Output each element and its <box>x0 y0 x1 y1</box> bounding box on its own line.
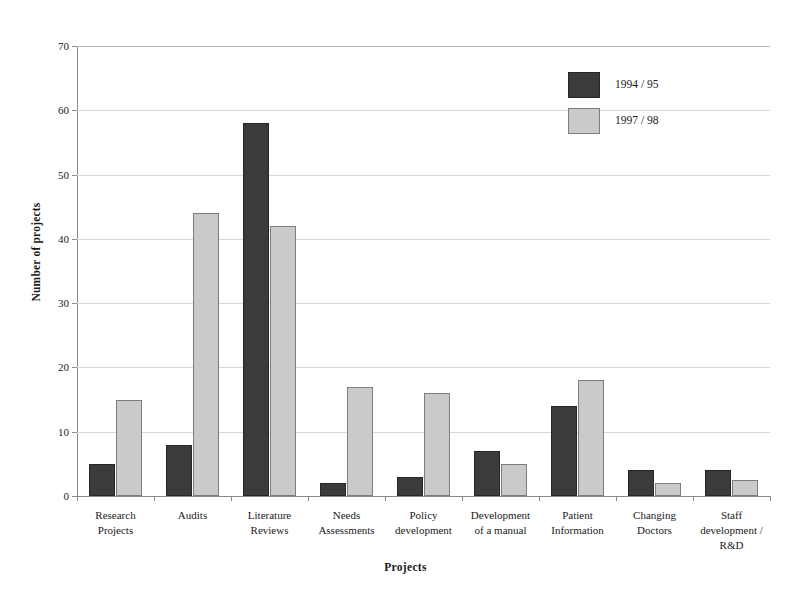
x-axis-category-label: Policydevelopment <box>385 508 462 538</box>
bar <box>655 483 681 496</box>
bar <box>116 400 142 496</box>
category-label-line: of a manual <box>462 523 539 538</box>
category-label-line: development <box>385 523 462 538</box>
x-axis-category-label: Developmentof a manual <box>462 508 539 538</box>
legend-swatch <box>568 108 600 134</box>
bar-group <box>705 46 758 496</box>
x-axis-category-label: LiteratureReviews <box>231 508 308 538</box>
bar-group <box>166 46 219 496</box>
y-tick-label: 0 <box>23 491 69 502</box>
x-axis-category-label: NeedsAssessments <box>308 508 385 538</box>
category-label-line: Projects <box>77 523 154 538</box>
y-tick-label: 40 <box>23 234 69 245</box>
bar <box>347 387 373 496</box>
bar <box>397 477 423 496</box>
bar <box>270 226 296 496</box>
category-label-line: development / <box>693 523 770 538</box>
y-tick-label: 60 <box>23 105 69 116</box>
category-label-line: Literature <box>231 508 308 523</box>
legend-label: 1997 / 98 <box>615 114 658 126</box>
category-label-line: Information <box>539 523 616 538</box>
bar <box>424 393 450 496</box>
category-label-line: Policy <box>385 508 462 523</box>
bar <box>243 123 269 496</box>
legend-label: 1994 / 95 <box>615 78 658 90</box>
category-label-line: Development <box>462 508 539 523</box>
bar <box>705 470 731 496</box>
x-tick-mark <box>770 496 771 501</box>
plot-area: 010203040506070 <box>77 46 770 497</box>
category-label-line: Needs <box>308 508 385 523</box>
bar-group <box>89 46 142 496</box>
y-tick-label: 20 <box>23 362 69 373</box>
legend-swatch <box>568 72 600 98</box>
bar <box>166 445 192 496</box>
y-tick-label: 50 <box>23 170 69 181</box>
bar <box>89 464 115 496</box>
bar <box>551 406 577 496</box>
bar-group <box>474 46 527 496</box>
y-tick-label: 10 <box>23 427 69 438</box>
bar <box>474 451 500 496</box>
category-label-line: Patient <box>539 508 616 523</box>
bar-layer <box>77 46 770 497</box>
y-tick-label: 70 <box>23 41 69 52</box>
x-axis-category-label: Staffdevelopment /R&D <box>693 508 770 553</box>
x-axis-category-label: ResearchProjects <box>77 508 154 538</box>
category-label-line: Research <box>77 508 154 523</box>
bar <box>320 483 346 496</box>
x-axis-title: Projects <box>0 561 811 573</box>
x-axis-category-label: Audits <box>154 508 231 523</box>
bar <box>501 464 527 496</box>
bar-group <box>243 46 296 496</box>
bar <box>628 470 654 496</box>
bar <box>732 480 758 496</box>
category-label-line: Changing <box>616 508 693 523</box>
bar <box>193 213 219 496</box>
category-label-line: Doctors <box>616 523 693 538</box>
bar-group <box>320 46 373 496</box>
category-label-line: Staff <box>693 508 770 523</box>
category-label-line: R&D <box>693 538 770 553</box>
category-label-line: Audits <box>154 508 231 523</box>
bar-group <box>397 46 450 496</box>
y-tick-label: 30 <box>23 298 69 309</box>
bar <box>578 380 604 496</box>
category-label-line: Reviews <box>231 523 308 538</box>
bar-chart: Number of projects 010203040506070 Resea… <box>0 0 811 611</box>
x-axis-category-label: PatientInformation <box>539 508 616 538</box>
x-axis-category-label: ChangingDoctors <box>616 508 693 538</box>
category-label-line: Assessments <box>308 523 385 538</box>
